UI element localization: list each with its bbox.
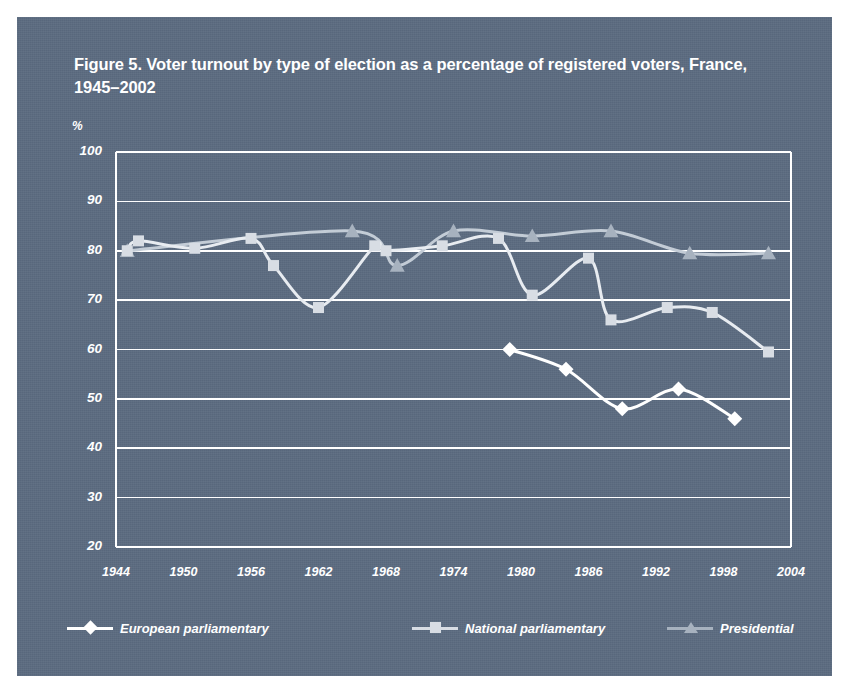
data-point-european-parliamentary-4 <box>727 411 742 426</box>
legend-swatch-presidential <box>667 618 713 638</box>
legend-marker-triangle-icon <box>684 622 698 633</box>
y-tick-label-100: 100 <box>56 143 102 158</box>
y-tick-label-80: 80 <box>56 242 102 257</box>
legend-item-national-parliamentary[interactable]: National parliamentary <box>412 615 605 641</box>
data-point-national-parliamentary-7 <box>381 245 392 256</box>
y-tick-label-90: 90 <box>56 192 102 207</box>
legend-item-presidential[interactable]: Presidential <box>667 615 794 641</box>
legend-marker-square-icon <box>430 622 441 633</box>
data-point-national-parliamentary-9 <box>493 233 504 244</box>
x-tick-label-1962: 1962 <box>289 565 349 579</box>
data-point-national-parliamentary-12 <box>606 314 617 325</box>
data-point-national-parliamentary-3 <box>246 233 257 244</box>
x-tick-label-1974: 1974 <box>424 565 484 579</box>
y-tick-label-70: 70 <box>56 291 102 306</box>
data-point-national-parliamentary-8 <box>437 240 448 251</box>
data-point-national-parliamentary-11 <box>583 253 594 264</box>
legend-swatch-european-parliamentary <box>67 618 113 638</box>
y-axis-unit-label: % <box>72 119 83 133</box>
data-point-national-parliamentary-2 <box>189 243 200 254</box>
y-tick-label-40: 40 <box>56 439 102 454</box>
y-tick-label-30: 30 <box>56 489 102 504</box>
series-european-parliamentary <box>502 342 742 426</box>
chart-plot-area: %100908070605040302019441950195619621968… <box>17 17 832 676</box>
x-tick-label-1998: 1998 <box>694 565 754 579</box>
legend-swatch-national-parliamentary <box>412 618 458 638</box>
data-point-national-parliamentary-4 <box>268 260 279 271</box>
y-tick-label-50: 50 <box>56 390 102 405</box>
legend-label-presidential: Presidential <box>713 621 794 636</box>
data-point-national-parliamentary-15 <box>763 346 774 357</box>
data-point-european-parliamentary-3 <box>671 382 686 397</box>
series-presidential <box>120 224 776 272</box>
x-tick-label-1986: 1986 <box>559 565 619 579</box>
x-tick-label-1950: 1950 <box>154 565 214 579</box>
data-point-national-parliamentary-5 <box>313 302 324 313</box>
x-tick-label-1968: 1968 <box>356 565 416 579</box>
data-point-european-parliamentary-0 <box>502 342 517 357</box>
x-tick-label-1956: 1956 <box>221 565 281 579</box>
x-tick-label-2004: 2004 <box>761 565 821 579</box>
data-point-national-parliamentary-6 <box>369 240 380 251</box>
series-line-national-parliamentary <box>127 236 768 352</box>
y-tick-label-60: 60 <box>56 341 102 356</box>
data-point-european-parliamentary-1 <box>559 362 574 377</box>
chart-legend: European parliamentaryNational parliamen… <box>57 615 797 655</box>
x-tick-label-1980: 1980 <box>491 565 551 579</box>
data-point-national-parliamentary-0 <box>122 245 133 256</box>
legend-marker-diamond-icon <box>83 620 97 634</box>
legend-label-european-parliamentary: European parliamentary <box>113 621 269 636</box>
figure-panel: Figure 5. Voter turnout by type of elect… <box>17 17 832 676</box>
data-point-national-parliamentary-1 <box>133 235 144 246</box>
legend-item-european-parliamentary[interactable]: European parliamentary <box>67 615 269 641</box>
x-tick-label-1992: 1992 <box>626 565 686 579</box>
data-point-national-parliamentary-10 <box>527 290 538 301</box>
y-tick-label-20: 20 <box>56 538 102 553</box>
data-point-national-parliamentary-14 <box>707 307 718 318</box>
data-point-european-parliamentary-2 <box>615 401 630 416</box>
data-point-national-parliamentary-13 <box>662 302 673 313</box>
legend-label-national-parliamentary: National parliamentary <box>458 621 605 636</box>
x-tick-label-1944: 1944 <box>86 565 146 579</box>
